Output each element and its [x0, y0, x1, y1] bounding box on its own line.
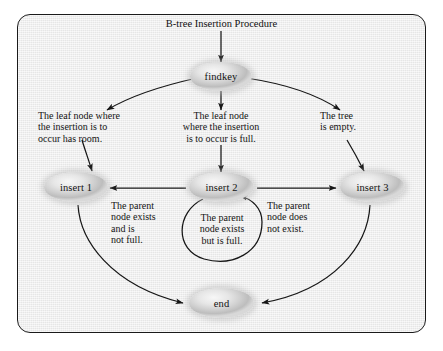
node-insert1-label: insert 1 [60, 182, 92, 193]
diagram-title: B-tree Insertion Procedure [0, 18, 443, 29]
node-end-label: end [214, 298, 229, 309]
edge-label-right-branch: The tree is empty. [320, 110, 400, 133]
node-findkey-label: findkey [205, 71, 238, 82]
node-findkey[interactable]: findkey [190, 62, 252, 91]
node-insert2[interactable]: insert 2 [189, 172, 254, 202]
edge-label-insert2-to-insert1: The parent node exists and is not full. [111, 200, 181, 246]
btree-insertion-diagram: B-tree Insertion Procedure findkey inser… [0, 0, 443, 351]
node-insert2-label: insert 2 [205, 182, 237, 193]
edge-label-insert2-self-loop: The parent node exists but is full. [184, 212, 260, 246]
node-insert1[interactable]: insert 1 [44, 172, 108, 202]
node-insert3[interactable]: insert 3 [340, 172, 405, 202]
node-end[interactable]: end [189, 288, 254, 318]
edge-label-center-branch: The leaf node where the insertion is to … [155, 110, 287, 144]
node-insert3-label: insert 3 [356, 182, 388, 193]
edge-label-left-branch: The leaf node where the insertion is to … [38, 110, 158, 144]
edge-label-insert2-to-insert3: The parent node does not exist. [267, 200, 341, 234]
